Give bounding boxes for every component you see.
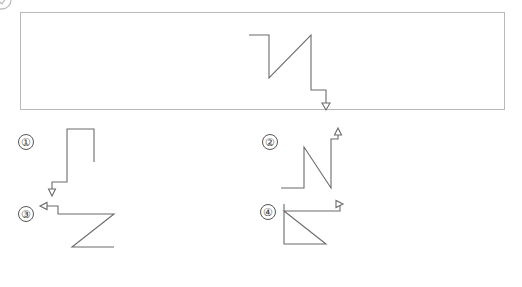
option-1-polyline [52,129,94,192]
option-1-figure [14,126,134,198]
option-2-arrowhead-up-icon [335,128,342,135]
option-4-polyline [284,204,340,244]
answer-option-3[interactable]: ③ [14,200,134,268]
option-3-polyline [43,206,114,247]
option-3-arrowhead-left-icon [40,203,47,210]
option-2-polyline [281,131,338,188]
question-page: ① ② ③ ④ [0,0,522,287]
option-2-figure [258,126,378,198]
cropped-corner-glyph-icon [0,0,13,11]
stimulus-polyline [249,35,326,106]
stimulus-figure [21,13,506,111]
stimulus-arrowhead-down-icon [322,103,330,110]
option-3-figure [14,200,134,268]
answer-option-2[interactable]: ② [258,126,378,198]
answer-option-1[interactable]: ① [14,126,134,198]
stimulus-frame [20,12,505,110]
option-4-figure [258,200,378,268]
option-1-arrowhead-down-icon [49,189,56,196]
answer-option-4[interactable]: ④ [258,200,378,268]
